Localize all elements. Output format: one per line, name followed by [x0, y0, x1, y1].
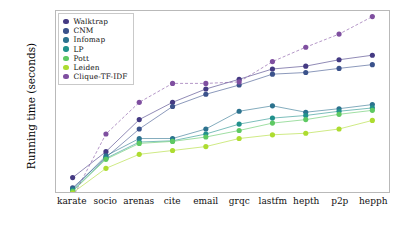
- data-point: [370, 14, 375, 19]
- data-point: [203, 126, 208, 131]
- legend-label: Pott: [74, 54, 89, 63]
- data-point: [336, 66, 341, 71]
- legend-item-clique-tf-idf[interactable]: Clique-TF-IDF: [63, 72, 127, 81]
- data-point: [270, 72, 275, 77]
- series-line: [73, 110, 373, 191]
- data-point: [336, 112, 341, 117]
- data-point: [237, 79, 242, 84]
- data-point: [103, 166, 108, 171]
- data-point: [303, 70, 308, 75]
- data-point: [203, 134, 208, 139]
- chart-legend[interactable]: WalktrapCNMInfomapLPPottLeidenClique-TF-…: [58, 13, 134, 85]
- x-tick-label: arenas: [123, 196, 154, 206]
- data-point: [237, 136, 242, 141]
- series-infomap: [70, 102, 375, 192]
- data-point: [336, 32, 341, 37]
- data-point: [203, 144, 208, 149]
- data-point: [137, 152, 142, 157]
- data-point: [270, 59, 275, 64]
- legend-marker-icon: [63, 46, 69, 52]
- legend-marker-icon: [63, 56, 69, 62]
- chart-figure: Running time (seconds) 10³10²10¹10⁰10⁻¹1…: [0, 0, 400, 231]
- legend-item-cnm[interactable]: CNM: [63, 26, 127, 35]
- legend-label: Leiden: [74, 63, 100, 72]
- legend-label: Infomap: [74, 35, 106, 44]
- x-tick-label: email: [193, 196, 218, 206]
- data-point: [303, 45, 308, 50]
- x-tick-label: lastfm: [259, 196, 287, 206]
- x-tick-label: p2p: [331, 196, 348, 206]
- data-point: [170, 148, 175, 153]
- data-point: [370, 108, 375, 113]
- legend-marker-icon: [63, 74, 69, 80]
- data-point: [137, 100, 142, 105]
- legend-item-walktrap[interactable]: Walktrap: [63, 17, 127, 26]
- data-point: [137, 126, 142, 131]
- data-point: [336, 126, 341, 131]
- legend-label: LP: [74, 45, 84, 54]
- data-point: [170, 104, 175, 109]
- legend-label: Clique-TF-IDF: [74, 72, 128, 81]
- legend-label: Walktrap: [74, 17, 109, 26]
- data-point: [370, 118, 375, 123]
- legend-label: CNM: [74, 26, 94, 35]
- x-tick-label: hepph: [359, 196, 387, 206]
- legend-marker-icon: [63, 37, 69, 43]
- series-line: [73, 120, 373, 192]
- data-point: [103, 157, 108, 162]
- data-point: [203, 81, 208, 86]
- x-tick-label: grqc: [229, 196, 250, 206]
- data-point: [270, 116, 275, 121]
- data-point: [170, 81, 175, 86]
- legend-marker-icon: [63, 65, 69, 71]
- data-point: [303, 64, 308, 69]
- data-point: [270, 66, 275, 71]
- data-point: [370, 53, 375, 58]
- legend-item-leiden[interactable]: Leiden: [63, 63, 127, 72]
- data-point: [270, 103, 275, 108]
- data-point: [336, 57, 341, 62]
- legend-marker-icon: [63, 28, 69, 34]
- data-point: [103, 131, 108, 136]
- data-point: [370, 62, 375, 67]
- data-point: [237, 109, 242, 114]
- data-point: [270, 121, 275, 126]
- data-point: [203, 92, 208, 97]
- legend-marker-icon: [63, 19, 69, 25]
- x-tick-label: cite: [164, 196, 181, 206]
- legend-item-pott[interactable]: Pott: [63, 54, 127, 63]
- data-point: [270, 132, 275, 137]
- legend-item-lp[interactable]: LP: [63, 45, 127, 54]
- x-tick-label: socio: [94, 196, 117, 206]
- data-point: [303, 117, 308, 122]
- x-tick-label: hepth: [293, 196, 319, 206]
- data-point: [203, 86, 208, 91]
- data-point: [137, 141, 142, 146]
- series-line: [73, 105, 373, 190]
- data-point: [70, 175, 75, 180]
- x-tick-label: karate: [57, 196, 86, 206]
- data-point: [170, 139, 175, 144]
- data-point: [137, 117, 142, 122]
- data-point: [303, 131, 308, 136]
- legend-item-infomap[interactable]: Infomap: [63, 35, 127, 44]
- data-point: [237, 122, 242, 127]
- data-point: [237, 128, 242, 133]
